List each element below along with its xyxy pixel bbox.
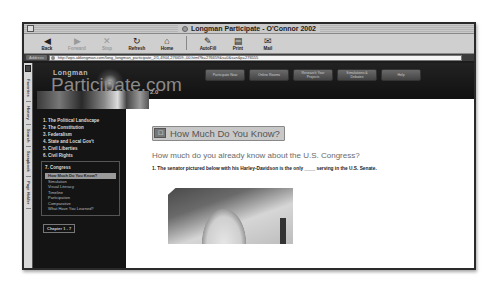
print-icon: ▤ <box>234 36 243 46</box>
stop-icon: ✕ <box>103 36 111 46</box>
site-nav: Participate Now Online Rooms Research Yo… <box>205 69 421 81</box>
lamp-post-shape <box>280 218 286 244</box>
chapter-link[interactable]: 1. The Political Landscape <box>43 117 126 124</box>
home-button[interactable]: ⌂ Home <box>152 33 182 52</box>
side-tab-page-holder[interactable]: Page Holder <box>26 177 31 209</box>
nav-help[interactable]: Help <box>381 69 421 81</box>
banner-image <box>37 91 149 109</box>
chapter-link[interactable]: 5. Civil Liberties <box>43 145 126 152</box>
browser-toolbar: ◀ Back ▶ Forward ✕ Stop ↻ Refresh ⌂ Home… <box>24 34 474 54</box>
chapter-nav: 1. The Political Landscape 2. The Consti… <box>33 109 126 268</box>
logo-version: 2.0 <box>150 89 158 95</box>
current-chapter-box: 7. Congress How Much Do You Know? Simula… <box>41 161 120 216</box>
window-title-text: Longman Participate - O'Connor 2002 <box>191 25 316 32</box>
forward-arrow-icon: ▶ <box>74 36 81 46</box>
explorer-side-tabs: Favorites History Search Scrapbook Page … <box>24 63 33 268</box>
chapter-link[interactable]: 2. The Constitution <box>43 124 126 131</box>
mail-icon: ✉ <box>264 36 272 46</box>
section-title: How Much Do You Know? <box>170 128 280 139</box>
globe-icon <box>182 26 188 32</box>
quiz-intro: How much do you already know about the U… <box>152 151 468 160</box>
autofill-icon: ✎ <box>204 36 212 46</box>
nav-research-projects[interactable]: Research Your Projects <box>293 69 333 81</box>
refresh-icon: ↻ <box>133 36 141 46</box>
url-text: http://wps.ablongman.com/long_longman_pa… <box>58 55 259 60</box>
home-icon: ⌂ <box>164 36 169 46</box>
side-tab-search[interactable]: Search <box>26 125 31 147</box>
quiz-icon: ☐ <box>154 128 166 138</box>
chapter-range-selector[interactable]: Chapter 1 - 7 <box>43 224 75 233</box>
forward-button[interactable]: ▶ Forward <box>62 33 92 52</box>
pin-icon[interactable] <box>25 65 31 72</box>
capitol-dome-shape <box>202 209 246 244</box>
nav-participate-now[interactable]: Participate Now <box>205 69 245 81</box>
section-title-badge: ☐ How Much Do You Know? <box>152 126 285 141</box>
window-title: Longman Participate - O'Connor 2002 <box>178 25 320 32</box>
title-bar[interactable]: Longman Participate - O'Connor 2002 <box>24 24 474 34</box>
question-1: 1. The senator pictured below with his H… <box>152 166 468 171</box>
mail-button[interactable]: ✉ Mail <box>253 33 283 52</box>
main-content: ☐ How Much Do You Know? How much do you … <box>152 121 468 171</box>
current-chapter[interactable]: 7. Congress <box>45 164 116 171</box>
address-bar: Address http://wps.ablongman.com/long_lo… <box>24 54 474 61</box>
back-arrow-icon: ◀ <box>44 36 51 46</box>
page-icon <box>51 56 55 60</box>
browser-window: Longman Participate - O'Connor 2002 ◀ Ba… <box>22 22 476 270</box>
subnav-what-have-you-learned[interactable]: What Have You Learned? <box>45 206 116 212</box>
web-page: Longman Participate.com 2.0 Participate … <box>33 63 474 268</box>
side-tab-favorites[interactable]: Favorites <box>26 75 31 102</box>
print-button[interactable]: ▤ Print <box>223 33 253 52</box>
autofill-button[interactable]: ✎ AutoFill <box>193 33 223 52</box>
stop-button[interactable]: ✕ Stop <box>92 33 122 52</box>
url-input[interactable]: http://wps.ablongman.com/long_longman_pa… <box>49 55 462 61</box>
close-box-icon[interactable] <box>27 25 34 32</box>
nav-simulations-debates[interactable]: Simulations & Debates <box>337 69 377 81</box>
side-tab-scrapbook[interactable]: Scrapbook <box>26 147 31 177</box>
toolbar-separator <box>186 36 187 50</box>
nav-online-rooms[interactable]: Online Rooms <box>249 69 289 81</box>
chapter-link[interactable]: 6. Civil Rights <box>43 152 126 159</box>
side-tab-history[interactable]: History <box>26 102 31 125</box>
back-button[interactable]: ◀ Back <box>32 33 62 52</box>
address-label: Address <box>26 55 47 60</box>
chapter-link[interactable]: 3. Federalism <box>43 131 126 138</box>
chapter-link[interactable]: 4. State and Local Gov't <box>43 138 126 145</box>
refresh-button[interactable]: ↻ Refresh <box>122 33 152 52</box>
browser-content: Favorites History Search Scrapbook Page … <box>24 63 474 268</box>
